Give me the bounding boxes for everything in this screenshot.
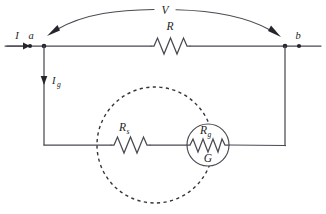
label-current-I: I — [14, 30, 19, 41]
label-resistor-Rs-base: R — [118, 121, 126, 133]
current-I-arrowhead — [23, 43, 30, 50]
label-voltage: V — [161, 4, 170, 16]
label-current-Ig: I g — [51, 75, 61, 89]
circuit-diagram: V R I a b I g R s R g G — [0, 0, 326, 214]
label-resistor-Rg-base: R — [199, 124, 207, 136]
resistor-R-symbol — [151, 38, 190, 54]
wire-bottom-right-segment — [229, 145, 286, 146]
current-Ig-arrowhead — [41, 76, 48, 85]
current-I-arrow — [7, 43, 30, 50]
voltage-arc-right — [176, 10, 270, 30]
voltage-arc-right-arrowhead — [268, 26, 281, 38]
bottom-wire-group — [44, 145, 286, 146]
label-current-Ig-subscript: g — [57, 80, 61, 89]
resistor-Rs-symbol — [111, 137, 150, 153]
voltage-arc-left-arrowhead — [47, 25, 60, 36]
circuit-svg: V R I a b I g R s R g G — [0, 0, 326, 214]
label-resistor-Rs: R s — [118, 121, 130, 136]
label-galvanometer: G — [204, 152, 213, 164]
label-resistor-R: R — [165, 20, 173, 32]
label-node-b: b — [295, 30, 300, 41]
voltage-arc-left — [56, 10, 154, 31]
label-current-Ig-base: I — [51, 75, 56, 86]
label-node-a: a — [28, 30, 33, 41]
node-dot-b-terminal — [297, 44, 301, 48]
label-resistor-Rg-subscript: g — [208, 130, 212, 139]
label-resistor-Rs-subscript: s — [127, 127, 130, 136]
